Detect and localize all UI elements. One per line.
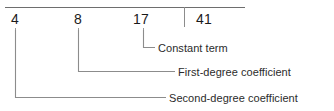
coefficient-value-first-degree: 8 (74, 12, 82, 26)
callout-label-second-degree-coefficient: Second-degree coefficient (169, 93, 298, 104)
callout-label-constant-term: Constant term (158, 43, 228, 54)
leader-line-constant-term (144, 30, 156, 48)
coefficient-value-constant: 17 (133, 12, 149, 26)
coefficient-value-remainder: 41 (196, 12, 212, 26)
callout-label-first-degree-coefficient: First-degree coefficient (178, 67, 291, 78)
coefficient-value-second-degree: 4 (11, 12, 19, 26)
coefficient-callout-diagram: 4 8 17 41 Constant term First-degree coe… (0, 0, 334, 111)
